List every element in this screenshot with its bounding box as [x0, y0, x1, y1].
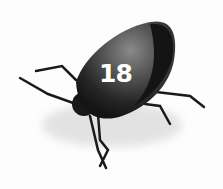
number-label: 18	[99, 61, 132, 86]
stink-bug-illustration	[0, 0, 223, 189]
bug-photo: 18	[0, 0, 223, 189]
